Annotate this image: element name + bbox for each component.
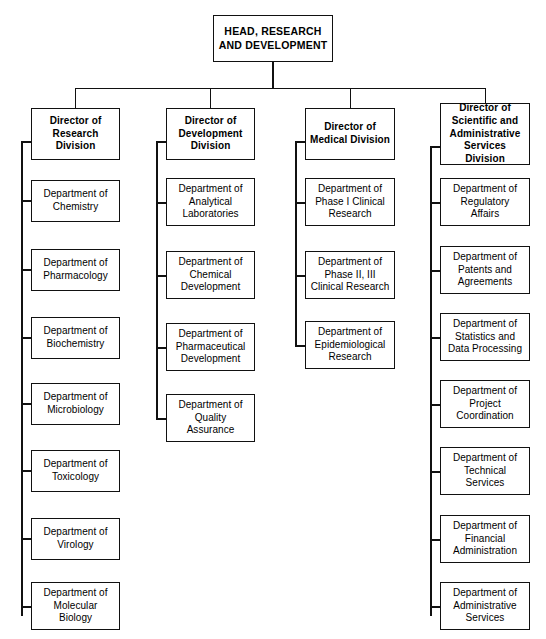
- spine-connector-column-2: [156, 141, 158, 419]
- division-bus-connector: [75, 88, 486, 90]
- dept-label-2-1: Department of Analytical Laboratories: [175, 183, 245, 221]
- dept-label-1-1: Department of Chemistry: [40, 188, 110, 214]
- dept-stub-3-2: [295, 275, 305, 277]
- dept-stub-1-5: [21, 470, 31, 472]
- dept-box-1-3: Department of Biochemistry: [31, 317, 120, 359]
- dept-stub-1-2: [21, 269, 31, 271]
- dept-stub-1-4: [21, 403, 31, 405]
- director-box-scientific-admin-division: Director of Scientific and Administrativ…: [440, 103, 530, 165]
- dept-stub-1-6: [21, 538, 31, 540]
- dept-box-1-5: Department of Toxicology: [31, 450, 120, 492]
- dept-stub-4-2: [430, 270, 440, 272]
- dept-label-4-5: Department of Technical Services: [450, 452, 520, 490]
- dept-box-3-2: Department of Phase II, III Clinical Res…: [305, 251, 395, 299]
- dept-stub-3-1: [295, 202, 305, 204]
- dept-box-4-4: Department of Project Coordination: [440, 380, 530, 428]
- dept-label-4-6: Department of Financial Administration: [450, 520, 520, 558]
- spine-stub-director-2: [156, 141, 166, 143]
- director-label-development-division: Director of Development Division: [176, 115, 246, 153]
- dept-box-1-6: Department of Virology: [31, 518, 120, 560]
- dept-stub-4-3: [430, 337, 440, 339]
- director-label-research-division: Director of Research Division: [47, 115, 105, 153]
- spine-stub-director-1: [21, 141, 31, 143]
- dept-label-4-1: Department of Regulatory Affairs: [450, 183, 520, 221]
- dept-box-2-1: Department of Analytical Laboratories: [166, 178, 255, 226]
- dept-stub-2-1: [156, 202, 166, 204]
- dept-stub-4-6: [430, 539, 440, 541]
- spine-stub-director-3: [295, 141, 305, 143]
- dept-box-1-2: Department of Pharmacology: [31, 249, 120, 291]
- dept-box-2-2: Department of Chemical Development: [166, 251, 255, 299]
- dept-box-1-1: Department of Chemistry: [31, 180, 120, 222]
- dept-label-1-6: Department of Virology: [40, 526, 110, 552]
- dept-box-3-1: Department of Phase I Clinical Research: [305, 178, 395, 226]
- dept-box-4-5: Department of Technical Services: [440, 447, 530, 495]
- spine-stub-director-4: [430, 146, 440, 148]
- dept-box-2-3: Department of Pharmaceutical Development: [166, 323, 255, 371]
- dept-stub-2-4: [156, 418, 166, 420]
- division-drop-connector-1: [75, 88, 77, 109]
- dept-label-3-1: Department of Phase I Clinical Research: [312, 183, 388, 221]
- director-box-research-division: Director of Research Division: [31, 108, 120, 160]
- director-label-scientific-admin-division: Director of Scientific and Administrativ…: [441, 102, 529, 166]
- dept-stub-4-4: [430, 404, 440, 406]
- dept-box-2-4: Department of Quality Assurance: [166, 394, 255, 442]
- dept-label-3-2: Department of Phase II, III Clinical Res…: [308, 256, 393, 294]
- dept-box-4-3: Department of Statistics and Data Proces…: [440, 313, 530, 361]
- spine-connector-column-1: [21, 141, 23, 616]
- dept-label-2-3: Department of Pharmaceutical Development: [173, 328, 249, 366]
- head-research-development-label: HEAD, RESEARCH AND DEVELOPMENT: [216, 25, 331, 52]
- director-label-medical-division: Director of Medical Division: [307, 121, 393, 147]
- dept-box-4-7: Department of Administrative Services: [440, 582, 530, 630]
- dept-box-4-2: Department of Patents and Agreements: [440, 246, 530, 294]
- dept-stub-2-3: [156, 347, 166, 349]
- dept-box-1-4: Department of Microbiology: [31, 383, 120, 425]
- dept-box-4-6: Department of Financial Administration: [440, 515, 530, 563]
- dept-stub-4-7: [430, 606, 440, 608]
- division-drop-connector-2: [210, 88, 212, 109]
- dept-label-2-4: Department of Quality Assurance: [175, 399, 245, 437]
- spine-connector-column-4: [430, 146, 432, 616]
- spine-connector-column-3: [295, 141, 297, 346]
- dept-box-1-7: Department of Molecular Biology: [31, 582, 120, 630]
- dept-stub-4-5: [430, 471, 440, 473]
- dept-label-1-5: Department of Toxicology: [40, 458, 110, 484]
- dept-label-1-3: Department of Biochemistry: [40, 325, 110, 351]
- dept-stub-4-1: [430, 202, 440, 204]
- dept-label-1-2: Department of Pharmacology: [40, 257, 111, 283]
- dept-stub-3-3: [295, 345, 305, 347]
- dept-box-3-3: Department of Epidemiological Research: [305, 321, 395, 369]
- dept-label-4-7: Department of Administrative Services: [450, 587, 520, 625]
- root-stem-connector: [272, 62, 274, 89]
- dept-stub-1-3: [21, 337, 31, 339]
- dept-label-1-7: Department of Molecular Biology: [40, 587, 110, 625]
- director-box-development-division: Director of Development Division: [166, 108, 255, 160]
- dept-stub-1-1: [21, 200, 31, 202]
- dept-label-4-2: Department of Patents and Agreements: [450, 251, 520, 289]
- dept-label-4-3: Department of Statistics and Data Proces…: [445, 318, 525, 356]
- dept-label-2-2: Department of Chemical Development: [175, 256, 245, 294]
- dept-label-1-4: Department of Microbiology: [40, 391, 110, 417]
- org-chart: HEAD, RESEARCH AND DEVELOPMENT Director …: [0, 0, 546, 639]
- division-drop-connector-3: [350, 88, 352, 109]
- dept-stub-2-2: [156, 275, 166, 277]
- head-research-development-box: HEAD, RESEARCH AND DEVELOPMENT: [213, 15, 333, 62]
- dept-stub-1-7: [21, 606, 31, 608]
- dept-label-4-4: Department of Project Coordination: [450, 385, 520, 423]
- dept-label-3-3: Department of Epidemiological Research: [312, 326, 389, 364]
- dept-box-4-1: Department of Regulatory Affairs: [440, 178, 530, 226]
- director-box-medical-division: Director of Medical Division: [305, 108, 395, 160]
